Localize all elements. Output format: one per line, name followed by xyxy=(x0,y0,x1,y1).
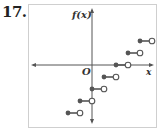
step-segment xyxy=(138,38,155,44)
origin-label: O xyxy=(82,66,91,77)
step-segment xyxy=(90,86,107,92)
step-segment xyxy=(78,98,95,104)
y-axis-label: f(x) xyxy=(71,9,92,20)
step-segment xyxy=(126,50,143,56)
step-segment xyxy=(66,110,83,116)
open-dot-icon xyxy=(89,98,95,104)
open-dot-icon xyxy=(113,74,119,80)
open-dot-icon xyxy=(125,62,131,68)
open-dot-icon xyxy=(101,86,107,92)
closed-dot-icon xyxy=(126,51,131,56)
y-axis-down-arrow-icon xyxy=(90,119,94,124)
x-axis-left-arrow-icon xyxy=(31,63,36,67)
step-function-graph: f(x) x O xyxy=(0,0,164,131)
closed-dot-icon xyxy=(90,87,95,92)
open-dot-icon xyxy=(77,110,83,116)
open-dot-icon xyxy=(149,38,155,44)
closed-dot-icon xyxy=(78,99,83,104)
x-axis-label: x xyxy=(145,67,152,77)
open-dot-icon xyxy=(137,50,143,56)
step-segments xyxy=(66,38,155,116)
closed-dot-icon xyxy=(138,39,143,44)
closed-dot-icon xyxy=(114,63,119,68)
closed-dot-icon xyxy=(102,75,107,80)
step-segment xyxy=(114,62,131,68)
step-segment xyxy=(102,74,119,80)
closed-dot-icon xyxy=(66,111,71,116)
